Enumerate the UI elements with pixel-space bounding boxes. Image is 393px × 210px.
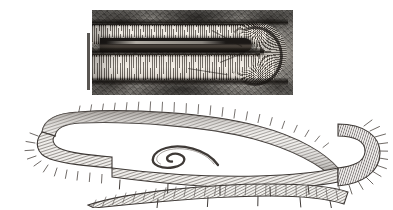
drawing-right-bend-body — [338, 124, 380, 186]
drawing-upper-limb-shading — [42, 111, 338, 182]
drawing-anterior-trunk — [25, 102, 338, 183]
drawing-coil-outer — [153, 147, 218, 168]
drawing-coiled-posterior-tip — [153, 147, 218, 168]
micrograph-vignette — [92, 10, 293, 95]
scale-bar — [87, 33, 90, 90]
line-drawing-svg — [8, 96, 388, 208]
drawing-left-u-bend — [37, 132, 112, 168]
drawing-coil-highlight — [157, 149, 214, 164]
drawing-posterior-setigerous-band — [88, 184, 348, 208]
micrograph-panel — [92, 10, 293, 95]
figure-root — [0, 0, 393, 210]
drawing-right-u-bend — [338, 120, 388, 196]
line-drawing-panel — [8, 96, 388, 208]
drawing-band-body — [88, 184, 348, 208]
